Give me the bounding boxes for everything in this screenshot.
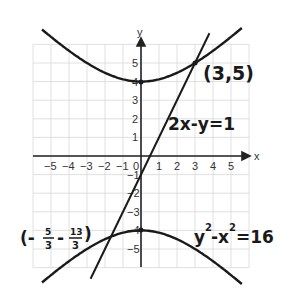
line-equation-label: 2x-y=1 <box>168 114 235 134</box>
x-tick-label: 4 <box>210 160 216 172</box>
y-tick-label: −3 <box>127 206 140 218</box>
y-tick-label: −1 <box>127 169 140 181</box>
x-tick-label: −3 <box>80 160 93 172</box>
y-tick-label: 3 <box>132 94 138 106</box>
svg-text:-: - <box>57 228 64 248</box>
svg-text:y: y <box>194 227 205 247</box>
point-a-label: (3,5) <box>203 62 254 84</box>
vertex-upper-dot <box>139 80 144 85</box>
y-tick-label: −5 <box>127 243 140 255</box>
y-axis-label: y <box>137 26 143 38</box>
svg-text:3: 3 <box>72 240 79 251</box>
intersection-point-a <box>193 61 198 66</box>
x-tick-label: 2 <box>174 160 180 172</box>
svg-text:(-: (- <box>20 228 35 248</box>
graph-canvas: x y −5−4−3−2−1012345 54321−1−2−3−4−5 (3,… <box>0 0 282 304</box>
svg-text:3: 3 <box>45 240 52 251</box>
x-tick-label: −4 <box>62 160 75 172</box>
hyperbola-equation-label: y 2 -x 2 =16 <box>194 222 274 247</box>
y-tick-label: 5 <box>132 57 138 69</box>
point-b-label: (- 5 3 - 13 3 ) <box>20 224 92 251</box>
svg-text:5: 5 <box>45 227 51 237</box>
x-tick-label: 1 <box>156 160 162 172</box>
svg-text:-x: -x <box>211 227 229 247</box>
svg-text:2: 2 <box>229 222 236 233</box>
x-tick-label: −2 <box>98 160 111 172</box>
x-tick-label: −5 <box>44 160 57 172</box>
svg-text:=16: =16 <box>236 227 274 247</box>
graph-figure: x y −5−4−3−2−1012345 54321−1−2−3−4−5 (3,… <box>0 0 282 304</box>
x-axis-label: x <box>254 150 260 162</box>
y-tick-label: 2 <box>132 113 138 125</box>
x-tick-label: 5 <box>228 160 234 172</box>
y-axis-arrow-icon <box>137 38 145 46</box>
svg-text:): ) <box>84 224 92 244</box>
x-tick-label: 3 <box>192 160 198 172</box>
svg-text:13: 13 <box>70 227 83 237</box>
vertex-lower-dot <box>139 228 144 233</box>
y-tick-label: 1 <box>132 131 138 143</box>
